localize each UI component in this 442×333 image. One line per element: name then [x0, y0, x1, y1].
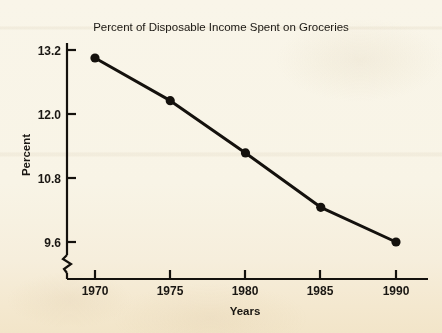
- data-point-1970: [90, 53, 99, 62]
- x-tick-label-1970: 1970: [82, 284, 109, 298]
- y-axis-title: Percent: [20, 134, 32, 176]
- data-point-1985: [316, 203, 325, 212]
- x-tick-label-1975: 1975: [157, 284, 184, 298]
- figure-page: Percent of Disposable Income Spent on Gr…: [0, 0, 442, 333]
- data-point-1980: [241, 148, 250, 157]
- data-point-1975: [166, 96, 175, 105]
- x-tick-label-1980: 1980: [232, 284, 259, 298]
- chart-title: Percent of Disposable Income Spent on Gr…: [93, 21, 349, 33]
- x-tick-label-1990: 1990: [383, 284, 410, 298]
- y-axis-break-icon: [63, 255, 71, 273]
- y-tick-label-10-8: 10.8: [38, 172, 62, 186]
- x-axis-ticks: [95, 270, 396, 279]
- y-tick-label-9-6: 9.6: [44, 236, 61, 250]
- x-tick-label-1985: 1985: [307, 284, 334, 298]
- line-chart: Percent of Disposable Income Spent on Gr…: [0, 0, 442, 333]
- y-tick-label-13-2: 13.2: [38, 44, 62, 58]
- y-axis-ticks: [67, 50, 76, 242]
- data-point-1990: [391, 237, 400, 246]
- y-tick-label-12-0: 12.0: [38, 108, 62, 122]
- x-axis-title: Years: [230, 305, 261, 317]
